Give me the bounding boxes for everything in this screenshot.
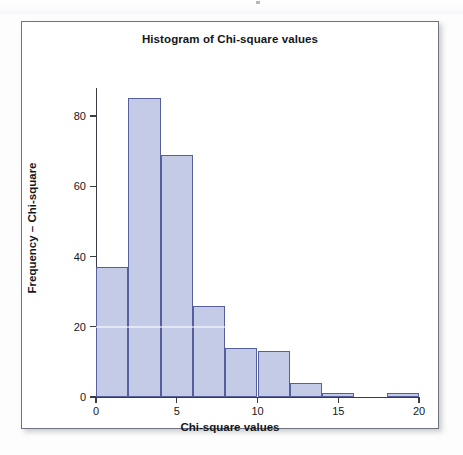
histogram-bar <box>193 306 225 397</box>
histogram-bar <box>290 383 322 397</box>
histogram-bar <box>322 393 354 397</box>
histogram-bar <box>258 351 290 397</box>
scan-speck-artifact <box>256 1 260 4</box>
histogram-bars <box>22 22 438 428</box>
scan-edge-artifact <box>0 0 463 14</box>
histogram-bar <box>96 267 128 397</box>
histogram-bar <box>225 348 257 397</box>
figure-frame: Histogram of Chi-square values 806040200… <box>21 21 439 429</box>
histogram-bar <box>387 393 419 397</box>
histogram-bar <box>161 155 193 397</box>
histogram-bar <box>128 98 160 397</box>
plot-area: Histogram of Chi-square values 806040200… <box>22 22 438 428</box>
